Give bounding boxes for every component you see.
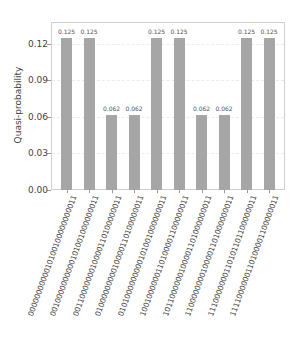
x-tick-mark — [89, 190, 90, 193]
quasi-probability-bar-chart: Quasi-probability 0.000.030.060.090.12 0… — [0, 0, 307, 357]
bar — [196, 115, 207, 190]
bar — [129, 115, 140, 190]
bar — [84, 38, 95, 190]
y-tick-label: 0.06 — [8, 112, 48, 122]
bar — [241, 38, 252, 190]
bar-value-label: 0.125 — [164, 28, 194, 35]
y-tick-label: 0.12 — [8, 39, 48, 49]
x-tick-mark — [269, 190, 270, 193]
bar-value-label: 0.062 — [119, 105, 149, 112]
bar-value-label: 0.125 — [254, 28, 284, 35]
bar-value-label: 0.125 — [74, 28, 104, 35]
bar — [61, 38, 72, 190]
bar-value-label: 0.062 — [209, 105, 239, 112]
x-tick-mark — [247, 190, 248, 193]
x-tick-mark — [112, 190, 113, 193]
bar — [174, 38, 185, 190]
bar — [106, 115, 117, 190]
x-tick-mark — [134, 190, 135, 193]
bar — [264, 38, 275, 190]
x-tick-mark — [157, 190, 158, 193]
x-tick-mark — [224, 190, 225, 193]
x-tick-mark — [67, 190, 68, 193]
bar — [151, 38, 162, 190]
x-tick-mark — [202, 190, 203, 193]
y-tick-label: 0.03 — [8, 148, 48, 158]
bar — [219, 115, 230, 190]
y-tick-label: 0.00 — [8, 185, 48, 195]
y-tick-label: 0.09 — [8, 75, 48, 85]
x-tick-mark — [179, 190, 180, 193]
